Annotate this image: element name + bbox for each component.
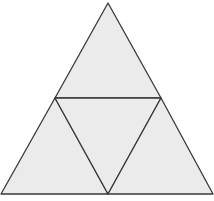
triangle-diagram — [0, 0, 214, 201]
sub-triangle-top — [55, 3, 161, 98]
sub-triangles — [1, 3, 213, 194]
